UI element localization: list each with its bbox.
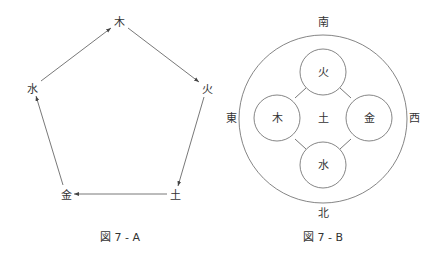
direction-south: 南 [318, 16, 329, 29]
figure-a: 木 火 土 金 水 図 7 - A [27, 16, 213, 244]
link-fire-metal [340, 88, 351, 98]
label-earth-center: 土 [318, 112, 329, 125]
direction-west: 西 [409, 112, 420, 125]
direction-east: 東 [226, 112, 237, 125]
direction-north: 北 [318, 207, 329, 220]
arrow-wood-to-fire [128, 28, 199, 82]
label-water: 水 [318, 159, 329, 172]
node-metal: 金 [61, 188, 72, 202]
diagram-canvas: 木 火 土 金 水 図 7 - A 火 木 金 水 土 南 北 東 西 図 7 … [0, 0, 441, 258]
caption-figure-b: 図 7 - B [303, 231, 343, 244]
link-metal-water [340, 139, 351, 149]
arrow-fire-to-earth [178, 97, 204, 186]
arrow-metal-to-water [36, 96, 63, 185]
node-earth: 土 [170, 189, 181, 202]
arrow-water-to-wood [41, 28, 111, 81]
link-wood-fire [295, 88, 306, 98]
link-water-wood [295, 139, 306, 149]
node-water: 水 [27, 83, 38, 96]
node-wood: 木 [114, 16, 125, 29]
label-fire: 火 [318, 66, 329, 79]
label-metal: 金 [364, 111, 375, 125]
caption-figure-a: 図 7 - A [100, 231, 140, 244]
label-wood: 木 [272, 112, 283, 125]
figure-b: 火 木 金 水 土 南 北 東 西 図 7 - B [226, 16, 420, 244]
node-fire: 火 [202, 83, 213, 96]
